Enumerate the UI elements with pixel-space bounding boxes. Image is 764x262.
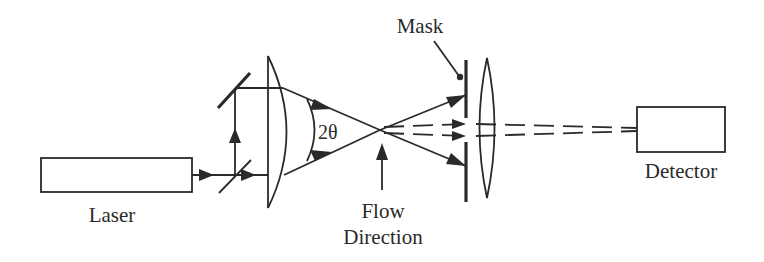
arrow-head-icon — [446, 95, 466, 108]
arrow-head-icon — [199, 169, 214, 181]
focusing-lens — [268, 56, 287, 208]
optical-diagram: Laser 2θ — [0, 0, 764, 262]
mask-pointer-dot — [457, 74, 463, 80]
arrow-head-icon — [241, 169, 256, 181]
scattered-light — [384, 119, 637, 141]
arrow-head-icon — [310, 150, 332, 161]
arrow-head-icon — [446, 153, 466, 166]
arrow-head-icon — [229, 128, 241, 143]
lower-beam — [192, 169, 268, 181]
mirror — [218, 73, 250, 108]
mask-label: Mask — [397, 14, 444, 38]
flow-direction-indicator: Flow Direction — [343, 143, 423, 249]
arrow-head-icon — [452, 131, 466, 141]
detector-label: Detector — [645, 159, 717, 183]
laser-label: Laser — [89, 203, 136, 227]
detector-box — [637, 107, 725, 152]
flow-label: Flow — [361, 199, 405, 223]
direction-label: Direction — [343, 225, 423, 249]
collecting-lens — [480, 58, 495, 198]
arrow-head-icon — [452, 119, 466, 129]
mask: Mask — [397, 14, 466, 202]
diverging-beams — [380, 95, 466, 166]
laser-source: Laser — [41, 158, 192, 227]
detector: Detector — [637, 107, 725, 183]
mask-leader-line — [434, 41, 459, 76]
angle-label: 2θ — [318, 121, 338, 143]
laser-box — [41, 158, 192, 192]
arrow-up-icon — [376, 143, 388, 160]
vertical-beam — [229, 88, 241, 175]
